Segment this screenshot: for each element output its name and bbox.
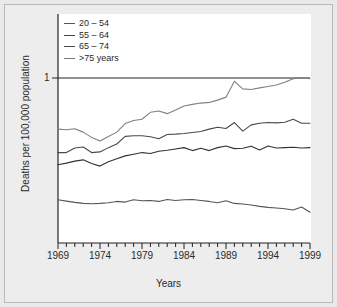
chart-legend: 20 – 54 55 – 64 65 – 74 >75 years	[64, 18, 119, 64]
x-axis-label: Years	[0, 278, 337, 289]
x-axis-tick-label: 1984	[173, 250, 195, 261]
x-axis-tick-label: 1994	[257, 250, 279, 261]
series-line	[58, 199, 310, 212]
series-line	[58, 146, 310, 166]
x-axis-tick-label: 1979	[131, 250, 153, 261]
legend-swatch-icon	[64, 46, 75, 47]
y-axis-label: Deaths per 100,000 population	[20, 39, 31, 209]
y-axis-label-wrap: Deaths per 100,000 population	[0, 0, 1, 1]
legend-swatch-icon	[64, 35, 75, 36]
legend-item-20-54: 20 – 54	[64, 18, 119, 30]
legend-item-65-74: 65 – 74	[64, 41, 119, 53]
legend-label: >75 years	[79, 53, 119, 65]
legend-label: 20 – 54	[79, 18, 109, 30]
x-axis-tick-label: 1974	[89, 250, 111, 261]
legend-label: 55 – 64	[79, 30, 109, 42]
y-axis-tick-label: 1	[44, 72, 50, 83]
x-axis-tick-label: 1999	[299, 250, 321, 261]
legend-item-over-75: >75 years	[64, 53, 119, 65]
legend-swatch-icon	[64, 23, 75, 24]
series-line	[58, 78, 310, 141]
x-axis-tick-label: 1989	[215, 250, 237, 261]
x-axis-tick-label: 1969	[47, 250, 69, 261]
legend-swatch-icon	[64, 58, 75, 59]
legend-item-55-64: 55 – 64	[64, 30, 119, 42]
figure-container: 20 – 54 55 – 64 65 – 74 >75 years 1 Deat…	[0, 0, 337, 307]
legend-label: 65 – 74	[79, 41, 109, 53]
